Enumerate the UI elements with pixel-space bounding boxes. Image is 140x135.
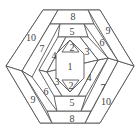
label-piece-3-bottom-left: 3	[55, 76, 60, 87]
label-piece-9-top-right: 9	[106, 25, 111, 36]
label-piece-3-top-right: 3	[85, 46, 90, 57]
label-piece-2-top: 2	[70, 42, 75, 53]
label-piece-10-right: 10	[101, 96, 111, 107]
label-piece-5-bottom: 5	[70, 97, 75, 108]
label-piece-9-bottom-left: 9	[31, 94, 36, 105]
label-piece-10-left: 10	[26, 32, 36, 43]
label-piece-8-bottom: 8	[70, 113, 75, 124]
label-piece-4-right: 4	[87, 72, 92, 83]
label-piece-4-left: 4	[52, 50, 57, 61]
label-piece-6-bottom-left: 6	[44, 86, 49, 97]
label-piece-8-top: 8	[71, 11, 76, 22]
label-piece-6-top-right: 6	[100, 37, 105, 48]
label-piece-1: 1	[68, 61, 73, 72]
hexagon-log-cabin-diagram: 1 2 2 3 3 4 4 5 5 6 6 7 7 8 8 9 9 10 10	[0, 0, 140, 135]
label-piece-2-bottom: 2	[69, 80, 74, 91]
label-piece-7-left: 7	[40, 43, 45, 54]
label-piece-5-top: 5	[70, 26, 75, 37]
label-piece-7-right: 7	[101, 82, 106, 93]
